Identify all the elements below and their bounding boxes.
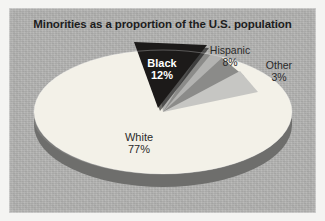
slice-label-black-value: 12% bbox=[129, 69, 195, 81]
slice-label-white-value: 77% bbox=[103, 143, 175, 155]
slice-label-other-value: 3% bbox=[255, 72, 303, 84]
chart-figure: Minorities as a proportion of the U.S. p… bbox=[0, 0, 325, 221]
slice-label-black: Black 12% bbox=[129, 57, 195, 82]
slice-label-other-name: Other bbox=[255, 60, 303, 72]
slice-label-hispanic-value: 8% bbox=[200, 57, 260, 69]
slice-label-white-name: White bbox=[103, 131, 175, 143]
pie-chart-graphic bbox=[0, 0, 325, 221]
slice-label-hispanic-name: Hispanic bbox=[200, 45, 260, 57]
slice-label-hispanic: Hispanic 8% bbox=[200, 45, 260, 69]
slice-label-white: White 77% bbox=[103, 131, 175, 156]
slice-label-other: Other 3% bbox=[255, 60, 303, 84]
slice-label-black-name: Black bbox=[129, 57, 195, 69]
